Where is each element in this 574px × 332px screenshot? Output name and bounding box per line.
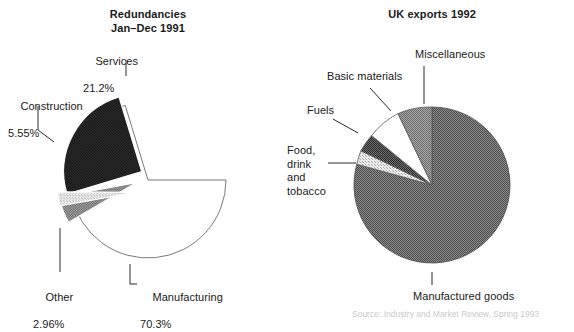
label-services-name: Services — [95, 55, 138, 67]
label-basic-materials: Basic materials — [327, 70, 402, 84]
label-manufacturing-value: 70.3% — [140, 318, 223, 332]
label-other-value: 2.96% — [33, 318, 73, 332]
leader-basic-materials — [370, 88, 391, 111]
label-services: Services 21.2% — [83, 41, 138, 122]
source-caption: Source: Industry and Market Review, Spri… — [352, 309, 574, 319]
label-food-drink-tobacco: Food, drink and tobacco — [287, 144, 326, 198]
label-manufacturing-name: Manufacturing — [152, 291, 222, 303]
pie-uk-exports — [328, 66, 510, 285]
label-manufactured-goods: Manufactured goods — [413, 290, 514, 304]
label-construction: Construction 5.55% — [8, 86, 83, 167]
chart-title-uk-exports: UK exports 1992 — [352, 8, 512, 22]
label-manufacturing: Manufacturing 70.3% — [140, 277, 223, 332]
label-construction-name: Construction — [20, 100, 82, 112]
label-other: Other 2.96% — [33, 277, 73, 332]
label-services-value: 21.2% — [83, 82, 138, 96]
label-construction-value: 5.55% — [8, 127, 83, 141]
label-other-name: Other — [45, 291, 73, 303]
leader-manufacturing — [130, 264, 137, 284]
leader-fuels — [333, 119, 358, 133]
label-fuels: Fuels — [307, 104, 334, 118]
chart-title-redundancies: Redundancies Jan–Dec 1991 — [62, 8, 234, 35]
label-miscellaneous: Miscellaneous — [415, 48, 485, 62]
